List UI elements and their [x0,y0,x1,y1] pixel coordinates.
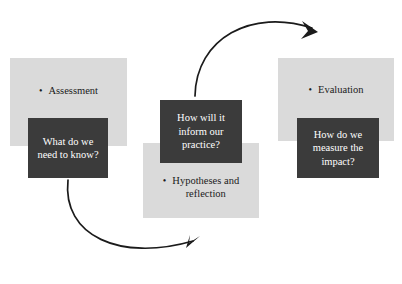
stage-evaluation-question-card: How do we measure the impact? [297,118,379,178]
stage-assessment-question-line2: need to know? [37,149,98,160]
stage-evaluation-question-line1: How do we [314,129,362,140]
stage-hypotheses-question-line2: inform our [178,126,223,137]
cycle-diagram: • Assessment What do we need to know? • … [0,0,402,284]
arrow-assessment-to-hypotheses [68,180,200,248]
stage-assessment-question-line1: What do we [43,136,94,147]
stage-hypotheses-question-card: How will it inform our practice? [160,100,242,163]
arrow-hypotheses-to-evaluation [195,21,318,96]
arrowhead-icon [186,235,200,248]
stage-assessment-question-card: What do we need to know? [28,118,108,178]
stage-evaluation-question-line2: measure the [313,142,363,153]
stage-evaluation-question-line3: impact? [321,156,354,167]
stage-assessment-question: What do we need to know? [32,135,103,162]
arrowhead-icon [301,21,318,39]
stage-hypotheses-question: How will it inform our practice? [172,111,230,152]
stage-hypotheses-question-line1: How will it [177,112,225,123]
stage-hypotheses-question-line3: practice? [182,139,220,150]
stage-evaluation-question: How do we measure the impact? [308,128,368,169]
